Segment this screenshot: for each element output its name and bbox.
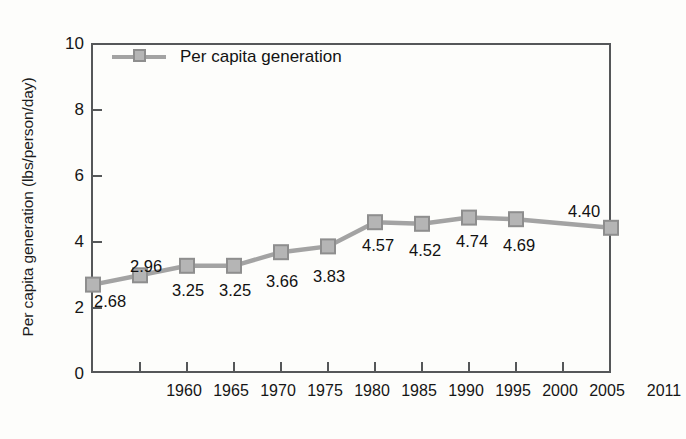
x-tick-label-2005: 2005 [577,382,637,400]
x-tick-mark [139,362,141,371]
chart-legend: Per capita generation [112,47,342,67]
x-tick-mark [280,362,282,371]
data-label-2005: 4.69 [503,236,535,255]
y-tick-label-0: 0 [44,364,84,384]
legend-line-swatch [112,55,166,59]
data-label-1965: 2.96 [130,257,162,276]
x-tick-mark [186,362,188,371]
data-label-1995: 4.52 [409,241,441,260]
legend-square-marker-icon [133,49,146,62]
data-label-2000: 4.74 [456,232,488,251]
y-tick-label-6: 6 [44,166,84,186]
x-tick-mark [515,362,517,371]
data-label-2011: 4.40 [568,202,600,221]
x-tick-mark [421,362,423,371]
x-tick-mark [327,362,329,371]
data-label-1980: 3.66 [266,272,298,291]
x-tick-mark [468,362,470,371]
x-tick-mark [233,362,235,371]
x-tick-label-2011: 2011 [634,382,686,400]
y-tick-mark [93,109,102,111]
x-tick-mark [562,362,564,371]
data-label-1960: 2.68 [94,292,126,311]
legend-entry-label: Per capita generation [180,47,342,67]
y-tick-label-10: 10 [44,34,84,54]
data-label-1985: 3.83 [313,267,345,286]
y-tick-label-4: 4 [44,232,84,252]
data-label-1990: 4.57 [362,236,394,255]
y-tick-mark [93,241,102,243]
y-tick-label-2: 2 [44,298,84,318]
data-label-1975: 3.25 [219,281,251,300]
data-label-1970: 3.25 [172,281,204,300]
x-tick-mark [374,362,376,371]
y-tick-mark [93,175,102,177]
y-axis-title: Per capita generation (lbs/person/day) [19,37,37,377]
plot-area [91,43,611,373]
y-tick-label-8: 8 [44,100,84,120]
